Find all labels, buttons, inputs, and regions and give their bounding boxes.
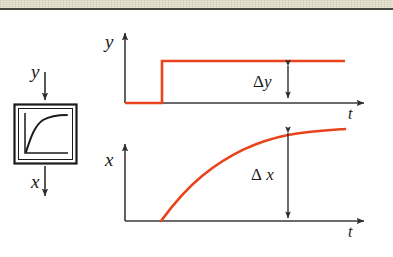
- delta-x-variable: x: [266, 165, 274, 184]
- system-block-outer: [15, 105, 77, 164]
- figure-root: y x y t Δy x t Δ x: [0, 0, 393, 257]
- bottom-chart-y-axis-label: x: [105, 150, 113, 169]
- top-chart-x-axis-label: t: [348, 106, 352, 122]
- block-output-label: x: [31, 172, 39, 191]
- top-chart-y-axis-label: y: [105, 32, 113, 51]
- delta-x-symbol: Δ: [251, 165, 262, 184]
- figure-drawing: [0, 0, 393, 257]
- block-input-label: y: [31, 62, 39, 81]
- top-chart-series-line: [125, 61, 345, 103]
- top-chart-group: [125, 33, 364, 103]
- block-diagram-group: [15, 72, 77, 196]
- delta-y-variable: y: [264, 72, 272, 91]
- delta-x-label: Δ x: [251, 166, 274, 183]
- delta-y-label: Δy: [253, 73, 271, 90]
- bottom-chart-group: [125, 129, 364, 221]
- bottom-chart-x-axis-label: t: [348, 224, 352, 240]
- delta-y-symbol: Δ: [253, 72, 264, 91]
